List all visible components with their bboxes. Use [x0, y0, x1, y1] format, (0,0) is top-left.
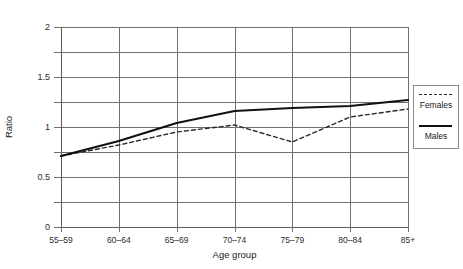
x-axis-tick: [292, 227, 293, 232]
x-axis-tick: [235, 227, 236, 232]
plot-area: 00.511.52 55–5960–6465–6970–7475–7980–84…: [61, 27, 408, 227]
legend-label-males: Males: [414, 131, 458, 141]
x-axis-tick-label: 55–59: [49, 235, 73, 245]
x-axis-tick-label: 80–84: [338, 235, 362, 245]
x-axis-tick: [177, 227, 178, 232]
chart-figure: 00.511.52 55–5960–6465–6970–7475–7980–84…: [0, 0, 463, 269]
legend-label-females: Females: [414, 100, 458, 110]
x-axis-tick-label: 70–74: [223, 235, 247, 245]
series-lines: [61, 27, 408, 227]
y-axis-tick: [54, 52, 61, 53]
clipped-title-text: [72, 0, 192, 4]
dashed-line-swatch: [419, 94, 452, 95]
x-axis-tick: [350, 227, 351, 232]
x-axis-tick-label: 75–79: [281, 235, 305, 245]
y-axis-tick: [54, 177, 61, 178]
solid-line-swatch: [419, 125, 452, 127]
gridline-vertical: [408, 27, 409, 227]
y-axis-tick: [54, 27, 61, 28]
y-axis-title: Ratio: [3, 116, 14, 138]
y-axis-tick: [54, 152, 61, 153]
y-axis-tick: [54, 227, 61, 228]
x-axis-tick: [61, 227, 62, 232]
y-axis-tick-label: 1: [45, 122, 50, 132]
y-axis-tick: [54, 102, 61, 103]
x-axis-title: Age group: [61, 249, 408, 260]
y-axis-tick-label: 0: [45, 222, 50, 232]
x-axis-tick: [408, 227, 409, 232]
series-line-females: [61, 109, 408, 156]
legend-item-males: Males: [414, 117, 458, 148]
legend-item-females: Females: [414, 86, 458, 117]
series-line-males: [61, 100, 408, 156]
y-axis-tick: [54, 77, 61, 78]
y-axis-tick-label: 1.5: [37, 72, 50, 82]
x-axis-tick-label: 85+: [401, 235, 415, 245]
chart-legend: Females Males: [413, 85, 459, 149]
x-axis-tick: [119, 227, 120, 232]
y-axis-tick: [54, 127, 61, 128]
y-axis-tick: [54, 202, 61, 203]
x-axis-tick-label: 60–64: [107, 235, 131, 245]
y-axis-tick-label: 2: [45, 22, 50, 32]
x-axis-tick-label: 65–69: [165, 235, 189, 245]
y-axis-tick-label: 0.5: [37, 172, 50, 182]
